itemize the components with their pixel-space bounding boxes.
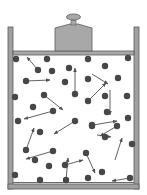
velocity-arrow xyxy=(26,151,53,159)
gas-particle xyxy=(99,169,105,175)
gas-particle xyxy=(35,67,41,73)
cylinder-bottom-wall xyxy=(8,184,139,189)
gas-particle xyxy=(89,123,95,129)
weight-handle[interactable] xyxy=(67,14,81,20)
gas-particle xyxy=(104,109,110,115)
velocity-arrow xyxy=(115,138,122,160)
gas-particle xyxy=(124,93,130,99)
cylinder-right-wall xyxy=(134,27,139,189)
cylinder-left-wall xyxy=(8,27,13,189)
gas-particle xyxy=(37,177,43,183)
gas-particle xyxy=(50,148,56,154)
gas-particle xyxy=(66,65,72,71)
velocity-arrow xyxy=(26,128,34,150)
gas-particle xyxy=(127,175,133,181)
gas-particle xyxy=(102,93,108,99)
gas-particle xyxy=(85,76,91,82)
gas-particle xyxy=(125,55,131,61)
gas-particle xyxy=(23,78,29,84)
velocity-arrow xyxy=(26,80,50,81)
velocity-arrow xyxy=(92,74,108,84)
gas-particle xyxy=(50,108,56,114)
gas-particle xyxy=(37,129,43,135)
gas-particle xyxy=(12,172,18,178)
gas-particle xyxy=(72,118,78,124)
gas-particle xyxy=(129,141,135,147)
weight-block[interactable] xyxy=(55,24,92,51)
weight-neck xyxy=(71,20,76,25)
velocity-arrow xyxy=(24,111,53,119)
gas-particle xyxy=(12,94,18,100)
gas-particle xyxy=(49,68,55,74)
gas-particle xyxy=(46,163,52,169)
gas-particle xyxy=(85,175,91,181)
gas-particles xyxy=(12,55,135,183)
gas-particle xyxy=(23,147,29,153)
piston-cylinder-diagram xyxy=(0,0,147,195)
gas-particle xyxy=(44,56,50,62)
velocity-arrow xyxy=(86,153,95,173)
gas-particle xyxy=(102,63,108,69)
gas-particle xyxy=(32,157,38,163)
piston[interactable] xyxy=(13,14,134,55)
cylinder-inner-bottom-line xyxy=(13,182,134,183)
gas-particle xyxy=(13,56,19,62)
gas-particle xyxy=(83,150,89,156)
velocity-arrow xyxy=(93,121,117,125)
velocity-arrow xyxy=(54,121,75,134)
gas-particle xyxy=(15,118,21,124)
gas-particle xyxy=(85,56,91,62)
velocity-arrow xyxy=(44,95,63,110)
gas-particle xyxy=(102,134,108,140)
gas-particle xyxy=(115,75,121,81)
gas-particle xyxy=(125,115,131,121)
gas-particle xyxy=(85,98,91,104)
velocity-arrow xyxy=(66,158,68,180)
gas-particle xyxy=(30,104,36,110)
gas-particle xyxy=(62,79,68,85)
gas-particle xyxy=(62,162,68,168)
gas-particle xyxy=(72,91,78,97)
gas-particle xyxy=(41,92,47,98)
piston-plate[interactable] xyxy=(13,51,134,55)
gas-particle xyxy=(63,177,69,183)
gas-particle xyxy=(114,123,120,129)
